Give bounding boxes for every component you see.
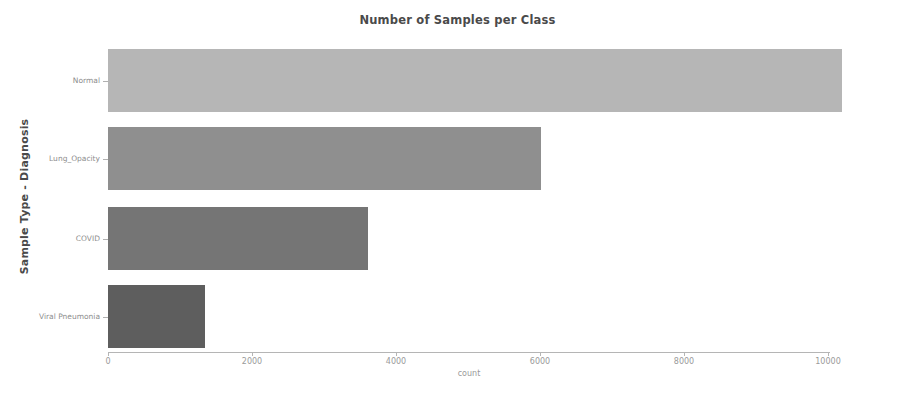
y-tick-mark-icon [103,239,108,240]
y-tick-label: Normal [73,76,100,85]
x-tick-label: 4000 [386,357,406,366]
y-axis-label: Sample Type - Diagnosis [19,118,32,274]
x-axis-label: count [108,369,830,378]
y-tick-mark-icon [103,317,108,318]
y-tick-label: COVID [76,234,100,243]
x-tick-label: 0 [105,357,110,366]
x-tick-mark-icon [108,352,109,356]
y-tick-mark-icon [103,81,108,82]
bar-lung-opacity [108,127,541,190]
chart-figure: Number of Samples per Class Sample Type … [0,0,915,395]
x-tick-mark-icon [252,352,253,356]
x-tick-mark-icon [684,352,685,356]
x-tick-mark-icon [396,352,397,356]
bar-normal [108,49,842,112]
x-tick-label: 6000 [530,357,550,366]
x-tick-label: 8000 [674,357,694,366]
x-tick-mark-icon [828,352,829,356]
y-tick-mark-icon [103,159,108,160]
y-tick-label: Lung_Opacity [49,154,100,163]
y-tick-label: Viral Pneumonia [39,312,100,321]
bar-viral-pneumonia [108,285,205,348]
bar-covid [108,207,368,270]
chart-title: Number of Samples per Class [0,13,915,27]
x-tick-label: 10000 [815,357,840,366]
x-tick-label: 2000 [242,357,262,366]
y-axis-label-container: Sample Type - Diagnosis [14,40,36,352]
x-tick-mark-icon [540,352,541,356]
x-axis-line [108,352,830,353]
plot-area: Normal Lung_Opacity COVID Viral Pneumo [108,30,828,352]
